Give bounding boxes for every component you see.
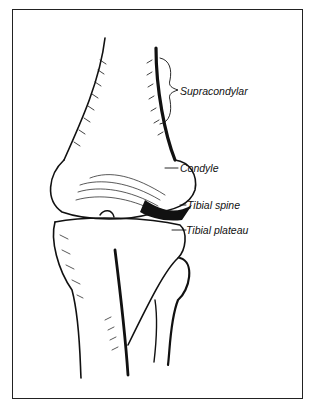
label-tibial-plateau: Tibial plateau (186, 224, 248, 236)
tibial-spine-bump (100, 211, 114, 217)
label-condyle: Condyle (180, 162, 219, 174)
femur-left-edge (64, 38, 105, 160)
knee-illustration (0, 0, 311, 408)
femur-right-edge (156, 48, 175, 160)
femoral-condyles (51, 160, 196, 219)
tibial-plateau-outline (55, 218, 185, 258)
fibula (168, 258, 189, 365)
label-tibial-spine: Tibial spine (187, 199, 240, 211)
tibia-right-edge (115, 250, 128, 375)
tibia-left-edge (54, 222, 81, 378)
label-supracondylar: Supracondylar (180, 85, 248, 97)
